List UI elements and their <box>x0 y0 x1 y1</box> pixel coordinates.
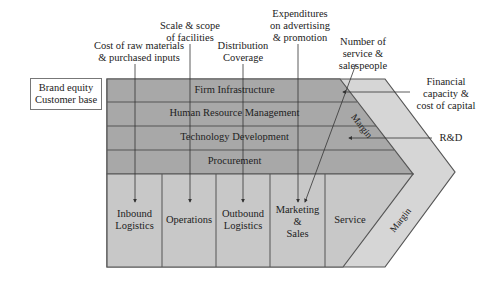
primary-marketing-sales: Marketing & Sales <box>270 204 325 240</box>
annotation-advertising: Expenditures on advertising & promotion <box>262 8 338 44</box>
support-procurement: Procurement <box>107 155 362 166</box>
annotation-financial: Financial capacity & cost of capital <box>408 76 484 112</box>
annotation-rnd: R&D <box>436 132 466 144</box>
primary-operations: Operations <box>162 214 216 226</box>
brand-equity-box: Brand equity Customer base <box>30 78 102 110</box>
primary-service: Service <box>325 214 375 226</box>
primary-outbound-logistics: Outbound Logistics <box>216 208 270 232</box>
primary-inbound-logistics: Inbound Logistics <box>107 208 162 232</box>
brand-equity-label: Brand equity <box>31 82 101 94</box>
support-firm-infrastructure: Firm Infrastructure <box>107 84 362 95</box>
support-technology-development: Technology Development <box>107 131 362 142</box>
support-hr-management: Human Resource Management <box>107 107 362 118</box>
annotation-service-sales: Number of service & salespeople <box>333 36 393 72</box>
customer-base-label: Customer base <box>31 94 101 106</box>
